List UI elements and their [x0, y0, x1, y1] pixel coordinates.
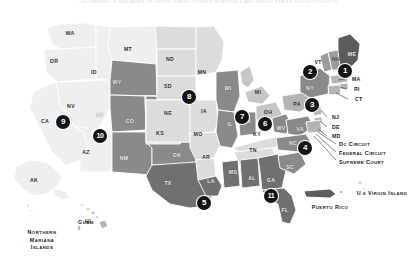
nmi-line-1: NORTHERN — [6, 229, 78, 237]
state-label-oh: OH — [264, 109, 272, 115]
state-label-ut: UT — [96, 112, 104, 118]
state-label-ar: AR — [202, 154, 210, 160]
state-label-ca: CA — [41, 118, 49, 124]
guam-label: GUAM — [78, 219, 94, 225]
state-label-or: OR — [50, 58, 58, 64]
state-label-pa: PA — [293, 101, 300, 107]
federal-circuit-caption: FEDERAL CIRCUIT — [339, 149, 386, 158]
circuit-badge-1[interactable]: 1 — [338, 64, 352, 78]
circuit-badge-9[interactable]: 9 — [56, 115, 70, 129]
state-label-ok: OK — [173, 152, 181, 158]
state-label-az: AZ — [82, 149, 90, 155]
state-label-la: LA — [207, 178, 215, 184]
state-label-nd: ND — [166, 56, 174, 62]
state-label-mt: MT — [124, 46, 132, 52]
pointer-label-nj: NJ — [332, 114, 339, 120]
nmi-line-2: MARIANA — [6, 237, 78, 245]
state-label-ak: AK — [30, 177, 38, 183]
circuit-badge-6[interactable]: 6 — [258, 117, 272, 131]
pointer-label-ct: CT — [355, 96, 363, 102]
pointer-label-ma: MA — [352, 76, 361, 82]
state-label-ks: KS — [156, 130, 164, 136]
state-label-wi: WI — [225, 85, 232, 91]
state-label-mo: MO — [194, 131, 203, 137]
circuit-badge-2[interactable]: 2 — [303, 65, 317, 79]
state-label-sd: SD — [164, 83, 172, 89]
state-label-il: IL — [227, 121, 232, 127]
state-label-tn: TN — [249, 147, 257, 153]
state-label-al: AL — [248, 175, 256, 181]
state-label-nm: NM — [120, 155, 129, 161]
puerto-rico-label: PUERTO RICO — [312, 204, 349, 210]
circuit-badge-8[interactable]: 8 — [182, 90, 196, 104]
supreme-court-caption: SUPREME COURT — [339, 158, 386, 167]
circuit-badge-3[interactable]: 3 — [305, 98, 319, 112]
state-label-ny: NY — [306, 85, 314, 91]
state-label-ga: GA — [267, 177, 275, 183]
state-label-mi: MI — [255, 89, 261, 95]
dc-circuit-caption: DC CIRCUIT — [339, 140, 386, 149]
state-label-ne: NE — [164, 110, 172, 116]
state-label-co: CO — [126, 118, 134, 124]
us-judicial-circuits-map: .s{stroke:#ffffff;stroke-width:.9;stroke… — [0, 0, 417, 259]
pointer-label-md: MD — [332, 133, 341, 139]
state-label-wa: WA — [66, 30, 75, 36]
pointer-label-ri: RI — [354, 86, 360, 92]
northern-mariana-islands-label: NORTHERN MARIANA ISLANDS — [6, 229, 78, 252]
state-label-id: ID — [91, 69, 97, 75]
virgin-island-label: U.S VIRGIN ISLAND — [357, 190, 407, 196]
state-label-nv: NV — [67, 103, 75, 109]
court-caption-block: DC CIRCUITFEDERAL CIRCUITSUPREME COURT — [339, 140, 386, 167]
state-label-ky: KY — [253, 131, 261, 137]
nmi-line-3: ISLANDS — [6, 244, 78, 252]
circuit-badge-5[interactable]: 5 — [197, 196, 211, 210]
map-canvas: GEOGRAPHIC BOUNDARIES OF UNITED STATES C… — [0, 0, 417, 259]
state-label-mn: MN — [198, 69, 207, 75]
pointer-label-de: DE — [332, 124, 340, 130]
state-label-wy: WY — [113, 79, 122, 85]
circuit-badge-4[interactable]: 4 — [298, 141, 312, 155]
state-label-nc: NC — [289, 140, 297, 146]
circuit-badge-7[interactable]: 7 — [235, 110, 249, 124]
state-label-me: ME — [348, 51, 356, 57]
state-label-ms: MS — [229, 169, 237, 175]
state-label-ia: IA — [201, 108, 207, 114]
circuit-badge-10[interactable]: 10 — [93, 129, 107, 143]
circuit-badge-11[interactable]: 11 — [264, 189, 278, 203]
state-label-fl: FL — [282, 207, 289, 213]
state-label-tx: TX — [164, 180, 171, 186]
state-label-nh: NH — [332, 56, 340, 62]
state-label-va: VA — [296, 126, 303, 132]
state-label-wv: WV — [277, 125, 286, 131]
state-label-sc: SC — [286, 164, 294, 170]
state-label-vt: VT — [314, 59, 321, 65]
